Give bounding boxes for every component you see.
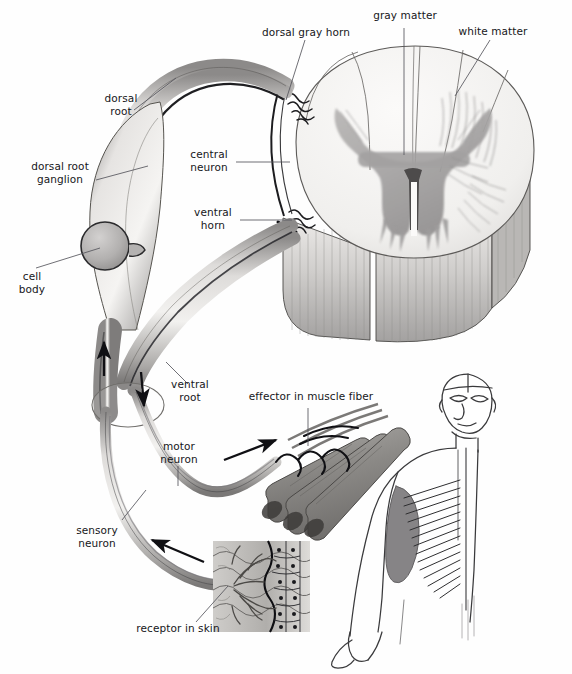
- label-motor-neuron: motor neuron: [150, 440, 208, 466]
- diagram-canvas: dorsal gray horn gray matter white matte…: [0, 0, 572, 674]
- label-sensory-neuron: sensory neuron: [64, 524, 130, 550]
- label-cell-body: cell body: [6, 270, 58, 296]
- label-white-matter: white matter: [443, 25, 543, 38]
- sensory-cell-body: [81, 222, 129, 270]
- label-central-neuron: central neuron: [178, 148, 240, 174]
- dorsal-root-ganglion-body: [90, 102, 164, 330]
- label-gray-matter: gray matter: [355, 9, 455, 22]
- label-dorsal-gray-horn: dorsal gray horn: [239, 26, 373, 39]
- label-dorsal-root: dorsal root: [85, 92, 157, 118]
- label-effector-in-muscle-fiber: effector in muscle fiber: [244, 390, 378, 403]
- leader-dorsal-gray-horn: [286, 40, 305, 100]
- label-dorsal-root-ganglion: dorsal root ganglion: [10, 160, 110, 186]
- label-ventral-root: ventral root: [160, 378, 220, 404]
- label-ventral-horn: ventral horn: [184, 206, 242, 232]
- nerve-trunk-structure: [81, 67, 294, 585]
- label-receptor-in-skin: receptor in skin: [124, 622, 232, 635]
- spinal-cord-structure: [271, 46, 534, 342]
- leader-sensory-neuron: [122, 490, 146, 520]
- motor-efferent-arrow-to-muscle: [224, 440, 276, 460]
